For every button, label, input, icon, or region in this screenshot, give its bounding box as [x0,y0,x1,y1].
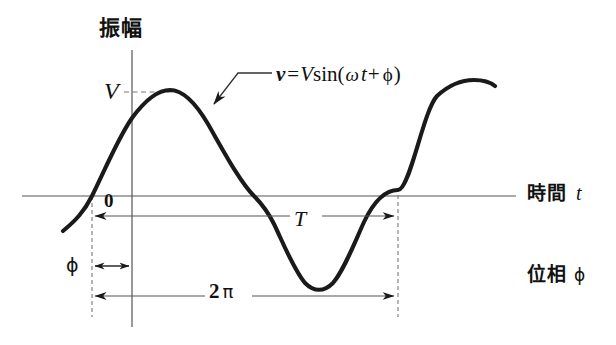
equation-amplitude: V [300,64,313,85]
equation-close-paren: ) [394,64,401,85]
full-cycle-pi-symbol: π [223,283,234,301]
amplitude-tick-label: V [104,79,119,103]
equation-omega: ω [346,65,359,84]
equation-open-paren: ( [338,64,345,85]
phase-offset-label: ϕ [66,256,79,275]
time-axis-variable: t [576,183,582,203]
full-cycle-label-group: 2 π [209,281,233,302]
waveform-diagram-canvas [0,0,616,345]
time-axis-title-group: 時間 t [527,183,582,203]
equation-plus: + [368,64,380,85]
phase-axis-title: 位相 [527,265,567,284]
wave-equation-label: v = V sin ( ω t + ϕ ) [276,64,401,85]
sine-wave-curve [63,80,495,290]
waveform-figure: 振幅 V 0 v = V sin ( ω t + ϕ ) 時間 t 位相 ϕ T… [0,0,616,345]
equation-leader-line [214,73,272,104]
phase-axis-variable: ϕ [574,267,585,284]
full-cycle-number: 2 [209,281,220,302]
time-axis-title: 時間 [527,184,567,203]
equation-lhs: v [276,64,285,85]
equation-phi: ϕ [383,65,393,84]
equation-equals: = [287,64,299,85]
phase-axis-title-group: 位相 ϕ [527,265,585,284]
period-label: T [294,208,306,230]
equation-time: t [361,64,367,85]
origin-label: 0 [104,191,114,210]
amplitude-axis-title: 振幅 [99,18,143,39]
equation-function: sin [313,64,338,85]
